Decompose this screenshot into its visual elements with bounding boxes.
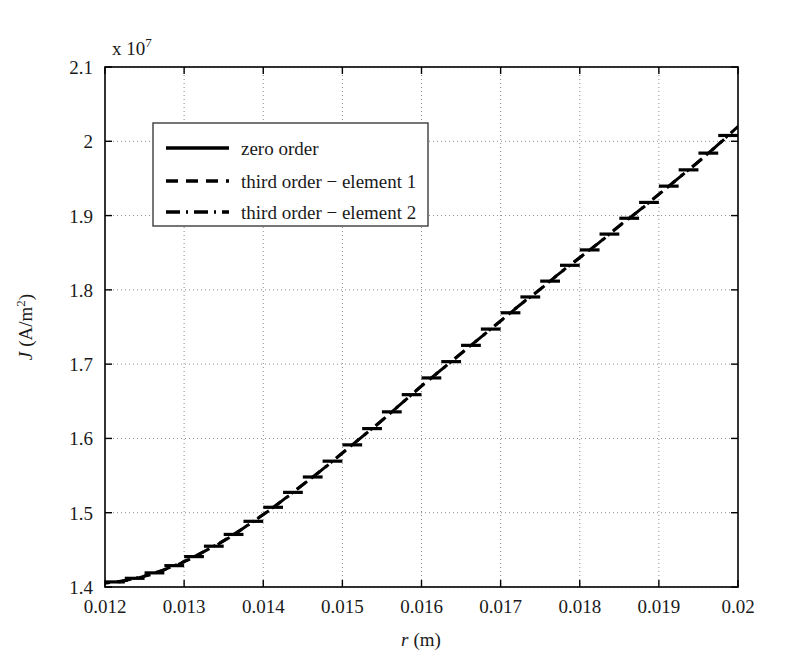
x-axis-tick-label: 0.017 (479, 596, 522, 617)
x-axis-title: r(m) (401, 629, 441, 651)
y-axis-tick-label: 1.8 (69, 280, 93, 301)
y-axis-tick-label: 1.5 (69, 503, 93, 524)
x-axis-title-symbol: r (401, 629, 409, 650)
x-axis-tick-label: 0.014 (242, 596, 285, 617)
y-axis-tick-label: 2.1 (69, 57, 93, 78)
x-axis-tick-label: 0.016 (400, 596, 443, 617)
x-axis-tick-label: 0.018 (558, 596, 601, 617)
legend-label-third-order-element-1: third order − element 1 (241, 171, 416, 192)
legend-label-third-order-element-2: third order − element 2 (241, 202, 416, 223)
y-axis-exponent-base: x 10 (112, 38, 145, 59)
x-axis-tick-label: 0.019 (638, 596, 681, 617)
x-axis-tick-labels: 0.0120.0130.0140.0150.0160.0170.0180.019… (84, 596, 755, 617)
y-axis-tick-label: 1.4 (69, 577, 93, 598)
y-axis-exponent-power: 7 (145, 35, 152, 50)
x-axis-title-unit: (m) (413, 629, 440, 651)
y-axis-tick-label: 1.7 (69, 354, 93, 375)
y-axis-title-unit-close: ) (15, 294, 37, 300)
y-axis-tick-label: 1.9 (69, 206, 93, 227)
legend-label-zero-order: zero order (241, 138, 319, 159)
x-axis-tick-label: 0.013 (163, 596, 206, 617)
legend: zero order third order − element 1 third… (153, 123, 428, 226)
chart-plot: 0.0120.0130.0140.0150.0160.0170.0180.019… (0, 0, 795, 672)
y-axis-title-unit: (A/m (15, 306, 37, 346)
y-axis-tick-label: 2 (84, 131, 94, 152)
y-axis-tick-label: 1.6 (69, 428, 93, 449)
x-axis-tick-label: 0.012 (84, 596, 127, 617)
x-axis-tick-label: 0.015 (321, 596, 364, 617)
x-axis-tick-label: 0.02 (721, 596, 754, 617)
figure-canvas: 0.0120.0130.0140.0150.0160.0170.0180.019… (0, 0, 795, 672)
